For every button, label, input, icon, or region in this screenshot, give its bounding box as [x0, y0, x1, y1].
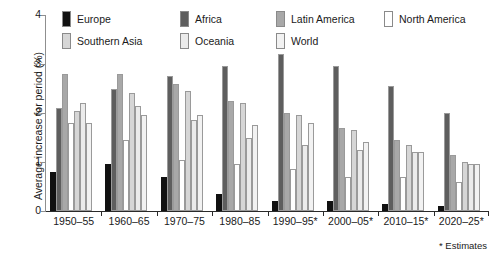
bar-group: 1970–75 — [157, 15, 212, 211]
x-tick-label: 1980–85 — [219, 215, 260, 227]
bar-group-bars — [434, 15, 489, 211]
x-tick-mark — [434, 211, 435, 216]
x-tick-mark — [488, 211, 489, 216]
bar-group-bars — [101, 15, 156, 211]
bar-group-bars — [157, 15, 212, 211]
y-tick-label: 4 — [35, 8, 41, 20]
bar-group: 1960–65 — [101, 15, 156, 211]
bar-chart-figure: EuropeAfricaLatin AmericaNorth America S… — [0, 0, 493, 254]
x-tick-mark — [101, 211, 102, 216]
y-tick-label: 1 — [35, 155, 41, 167]
bar-world[interactable] — [86, 123, 92, 211]
x-tick-mark — [212, 211, 213, 216]
bar-group: 2000–05* — [323, 15, 378, 211]
bar-group-bars — [323, 15, 378, 211]
y-tick-label: 2 — [35, 106, 41, 118]
bar-world[interactable] — [252, 125, 258, 211]
y-tick-mark — [41, 211, 46, 212]
bar-group: 1950–55 — [46, 15, 101, 211]
bar-groups: 1950–551960–651970–751980–851990–95*2000… — [46, 15, 489, 211]
x-tick-label: 1950–55 — [53, 215, 94, 227]
bar-world[interactable] — [418, 152, 424, 211]
y-tick: 0 — [45, 211, 50, 212]
y-tick-label: 0 — [35, 204, 41, 216]
bar-group-bars — [212, 15, 267, 211]
x-tick-label: 2020–25* — [439, 215, 484, 227]
x-tick-label: 1970–75 — [164, 215, 205, 227]
bar-group-bars — [268, 15, 323, 211]
bar-world[interactable] — [141, 115, 147, 211]
bar-world[interactable] — [363, 142, 369, 211]
x-tick-label: 2000–05* — [328, 215, 373, 227]
x-tick-mark — [157, 211, 158, 216]
y-axis-title: Average increase for period (%) — [32, 26, 44, 226]
bar-group: 2010–15* — [378, 15, 433, 211]
bar-group: 2020–25* — [434, 15, 489, 211]
bar-world[interactable] — [474, 164, 480, 211]
bar-group: 1980–85 — [212, 15, 267, 211]
x-tick-label: 1960–65 — [109, 215, 150, 227]
bar-world[interactable] — [197, 115, 203, 211]
x-tick-mark — [378, 211, 379, 216]
x-tick-mark — [268, 211, 269, 216]
x-tick-mark — [323, 211, 324, 216]
bar-group: 1990–95* — [268, 15, 323, 211]
bar-world[interactable] — [308, 123, 314, 211]
y-tick-label: 3 — [35, 57, 41, 69]
bar-group-bars — [378, 15, 433, 211]
x-tick-label: 1990–95* — [273, 215, 318, 227]
plot-area: 01234 1950–551960–651970–751980–851990–9… — [45, 15, 489, 211]
estimates-footnote: * Estimates — [439, 240, 487, 251]
x-tick-label: 2010–15* — [383, 215, 428, 227]
bar-group-bars — [46, 15, 101, 211]
